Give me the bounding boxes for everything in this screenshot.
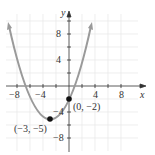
- y-tick-m8: −8: [53, 132, 64, 143]
- vertex-label: (−3, −5): [14, 123, 47, 135]
- y-tick-4: 4: [56, 54, 61, 65]
- x-axis-label: x: [139, 89, 145, 100]
- intercept-point: [66, 96, 72, 102]
- curve-arrow-left-icon: [7, 22, 12, 30]
- y-tick-m4: −4: [53, 106, 64, 117]
- y-arrow-icon: [67, 11, 71, 17]
- x-tick-m4: −4: [35, 89, 46, 100]
- vertex-point: [47, 116, 53, 122]
- x-tick-m8: −8: [9, 89, 20, 100]
- x-arrow-icon: [140, 84, 146, 88]
- y-tick-8: 8: [56, 28, 61, 39]
- parabola-graph: y x −8 −4 4 8 8 4 −4 −8 (−3, −5) (0, −2): [0, 0, 155, 155]
- x-tick-4: 4: [93, 89, 98, 100]
- x-tick-8: 8: [119, 89, 124, 100]
- graph-svg: y x −8 −4 4 8 8 4 −4 −8 (−3, −5) (0, −2): [0, 0, 155, 155]
- intercept-label: (0, −2): [73, 101, 100, 113]
- curve-arrow-right-icon: [88, 22, 93, 30]
- y-axis-label: y: [60, 7, 66, 18]
